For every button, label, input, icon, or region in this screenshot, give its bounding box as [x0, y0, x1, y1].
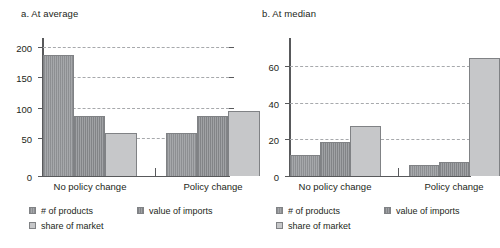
xtick-label-a-no-policy-change: No policy change	[54, 181, 127, 192]
bar-a-no-policy-change-market[interactable]	[105, 133, 137, 177]
ytick-label-b-60: 60	[268, 62, 279, 73]
group-divider-a	[155, 168, 156, 176]
legend-row-a-2: share of market	[29, 218, 234, 233]
legend-row-b-2: share of market	[276, 218, 481, 233]
bar-a-no-policy-change-imports[interactable]	[74, 116, 105, 177]
bar-b-policy-change-market[interactable]	[469, 58, 500, 176]
legend-b: # of products value of imports share of …	[276, 203, 481, 233]
legend-row-b-1: # of products value of imports	[276, 203, 481, 218]
xtick-label-b-no-policy-change: No policy change	[299, 181, 372, 192]
legend-label-a-products: # of products	[41, 206, 93, 216]
legend-label-b-products: # of products	[288, 206, 340, 216]
ytick-label-b-40: 40	[268, 98, 279, 109]
legend-swatch-icon-products	[29, 207, 36, 214]
legend-a: # of products value of imports share of …	[29, 203, 234, 233]
legend-row-a-1: # of products value of imports	[29, 203, 234, 218]
bar-b-no-policy-change-imports[interactable]	[320, 142, 350, 176]
panel-title-b: b. At median	[262, 8, 316, 19]
legend-label-b-market: share of market	[288, 221, 351, 231]
legend-item-a-products: # of products	[29, 206, 137, 216]
legend-swatch-icon-products	[276, 207, 283, 214]
bar-b-no-policy-change-market[interactable]	[350, 126, 381, 176]
ytick-a-0: 0	[38, 176, 43, 177]
bar-group-a-no-policy-change	[43, 46, 137, 176]
ytick-label-a-0: 0	[27, 172, 32, 183]
legend-swatch-icon-market	[29, 222, 36, 229]
bar-b-policy-change-imports[interactable]	[439, 162, 469, 176]
ytick-label-a-200: 200	[16, 43, 32, 54]
bar-b-policy-change-products[interactable]	[409, 165, 439, 176]
panel-at-median: b. At median 60 40 20 0	[241, 0, 482, 248]
bar-b-no-policy-change-products[interactable]	[290, 155, 320, 176]
bar-a-policy-change-products[interactable]	[166, 133, 197, 176]
panel-title-a: a. At average	[21, 8, 78, 19]
legend-label-a-imports: value of imports	[149, 206, 213, 216]
bar-a-no-policy-change-products[interactable]	[43, 55, 74, 176]
legend-item-b-market: share of market	[276, 221, 384, 231]
legend-swatch-icon-market	[276, 222, 283, 229]
bar-a-policy-change-imports[interactable]	[197, 116, 228, 177]
legend-item-a-market: share of market	[29, 221, 137, 231]
legend-item-b-imports: value of imports	[384, 206, 460, 216]
legend-swatch-icon-imports	[137, 207, 144, 214]
legend-label-a-market: share of market	[41, 221, 104, 231]
ytick-label-a-100: 100	[16, 103, 32, 114]
ytick-label-a-150: 150	[16, 73, 32, 84]
ytick-label-b-0: 0	[274, 172, 279, 183]
plot-area-b: 60 40 20 0 No policy change	[290, 46, 470, 176]
legend-item-a-imports: value of imports	[137, 206, 213, 216]
ytick-label-a-50: 50	[21, 133, 32, 144]
legend-swatch-icon-imports	[384, 207, 391, 214]
bar-group-b-policy-change	[409, 46, 500, 176]
legend-item-b-products: # of products	[276, 206, 384, 216]
xtick-label-b-policy-change: Policy change	[424, 181, 483, 192]
panel-at-average: a. At average 200 150 100 50	[0, 0, 241, 248]
group-divider-b	[398, 168, 399, 176]
ytick-label-b-20: 20	[268, 135, 279, 146]
bar-group-b-no-policy-change	[290, 46, 381, 176]
legend-label-b-imports: value of imports	[396, 206, 460, 216]
ytick-b-0: 0	[285, 176, 290, 177]
xtick-label-a-policy-change: Policy change	[183, 181, 242, 192]
plot-area-a: 200 150 100 50 0	[43, 46, 229, 176]
